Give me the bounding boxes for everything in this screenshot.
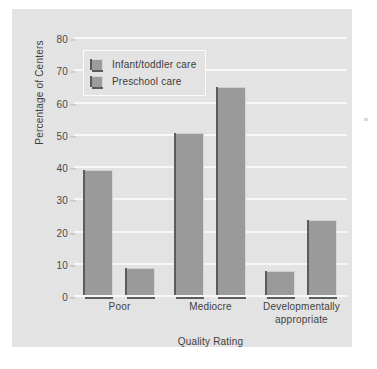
bar [127, 268, 155, 297]
figure: 01020304050607080 Percentage of Centers … [0, 0, 377, 369]
y-tick-label: 30 [56, 195, 68, 206]
y-tick-label: 60 [56, 98, 68, 109]
y-tick-mark [70, 297, 76, 299]
bar [309, 220, 337, 297]
legend-label: Preschool care [112, 76, 182, 87]
legend-item: Preschool care [90, 73, 196, 90]
y-tick-label: 10 [56, 259, 68, 270]
bar [85, 170, 113, 297]
bar [218, 87, 246, 297]
legend-label: Infant/toddler care [112, 59, 196, 70]
y-tick-label: 20 [56, 227, 68, 238]
x-axis-tick-labels: PoorMediocreDevelopmentally appropriate [74, 301, 347, 335]
chart-panel: 01020304050607080 Percentage of Centers … [12, 9, 352, 347]
y-tick-label: 50 [56, 130, 68, 141]
y-axis-title: Percentage of Centers [34, 13, 45, 173]
y-tick-label: 70 [56, 66, 68, 77]
legend-item: Infant/toddler care [90, 56, 196, 73]
y-tick-label: 80 [56, 34, 68, 45]
bar [176, 133, 204, 297]
legend-swatch-icon [92, 59, 103, 70]
scan-artifact [364, 118, 368, 121]
x-tick-label: Developmentally appropriate [244, 301, 359, 326]
x-axis-baseline [74, 295, 347, 297]
bar [267, 271, 295, 297]
bar-group [267, 39, 337, 297]
legend: Infant/toddler carePreschool care [83, 50, 206, 96]
y-tick-label: 40 [56, 163, 68, 174]
x-axis-title: Quality Rating [74, 336, 347, 347]
legend-swatch-icon [92, 76, 103, 87]
